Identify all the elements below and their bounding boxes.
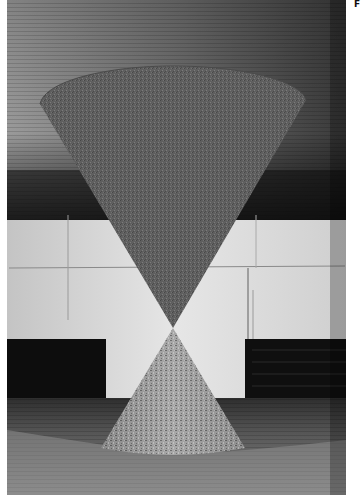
photo-illustration [7,0,346,495]
corner-label: F [354,0,360,9]
edge-shadow [330,0,346,495]
installation-photo [7,0,346,495]
